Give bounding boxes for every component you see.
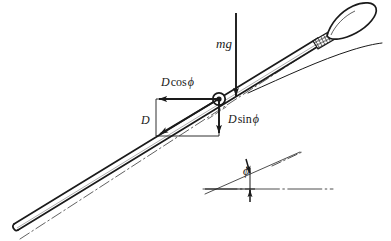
diagram-canvas <box>0 0 391 241</box>
cos-angle-symbol: ϕ <box>188 75 194 89</box>
javelin-head <box>327 3 376 39</box>
angle-phi-detail <box>203 152 333 202</box>
weight-label-mg: mg <box>216 37 232 50</box>
drag-sin-component-label: D sin ϕ <box>228 113 259 125</box>
angle-phi-symbol: ϕ <box>243 164 249 178</box>
drag-cos-variable: D <box>161 75 170 89</box>
javelin-free-body-diagram: mg D cos ϕ D sin ϕ D ϕ <box>0 0 391 241</box>
drag-sin-variable: D <box>228 112 237 126</box>
trajectory-curve <box>208 43 382 119</box>
weight-label-text: mg <box>216 36 232 51</box>
drag-resultant-label: D <box>141 114 150 126</box>
sin-function-name: sin <box>238 112 252 126</box>
cos-function-name: cos <box>171 75 187 89</box>
drag-cos-component-label: D cos ϕ <box>161 76 194 88</box>
angle-phi-label: ϕ <box>243 165 249 177</box>
sin-angle-symbol: ϕ <box>253 112 259 126</box>
drag-resultant-symbol: D <box>141 113 150 127</box>
javelin-body <box>13 38 322 231</box>
